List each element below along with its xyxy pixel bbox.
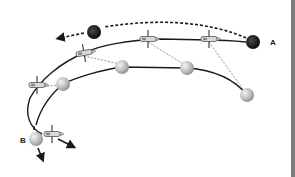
dark-body-trajectory-arrow bbox=[60, 33, 84, 38]
light-body-orbit bbox=[36, 67, 247, 125]
point-a-label: A bbox=[270, 38, 276, 47]
dark-body-top bbox=[87, 25, 101, 39]
satellite-icon bbox=[75, 42, 98, 63]
light-body-b bbox=[29, 132, 43, 146]
edge-bar bbox=[291, 0, 295, 177]
light-body-4 bbox=[56, 77, 70, 91]
satellite-5-arrow bbox=[58, 139, 72, 146]
satellite-icon bbox=[29, 76, 49, 94]
point-b-label: B bbox=[20, 136, 26, 145]
diagram-canvas: A B bbox=[0, 0, 295, 177]
dark-body-trajectory bbox=[104, 22, 246, 38]
satellite-icon bbox=[140, 30, 160, 48]
light-body-2 bbox=[180, 61, 194, 75]
light-body-b-arrow bbox=[38, 148, 42, 158]
dark-body-a bbox=[246, 35, 260, 49]
orbital-diagram: A B bbox=[0, 0, 295, 177]
light-body-3 bbox=[115, 60, 129, 74]
light-body-1 bbox=[240, 88, 254, 102]
